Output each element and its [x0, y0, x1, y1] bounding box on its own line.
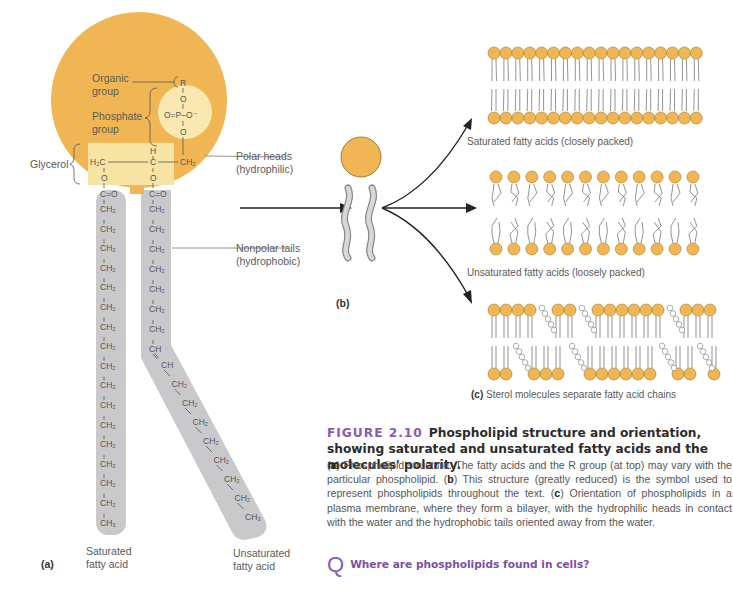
- svg-text:CH₂: CH₂: [100, 420, 116, 430]
- svg-text:C=O: C=O: [149, 189, 167, 199]
- svg-text:CH₂: CH₂: [100, 263, 116, 273]
- review-question: QWhere are phospholipids found in cells?: [327, 552, 589, 578]
- unsaturated-fatty-acid-label: Unsaturatedfatty acid: [233, 547, 290, 573]
- svg-text:CH₂: CH₂: [100, 361, 116, 371]
- svg-text:CH₂: CH₂: [100, 400, 116, 410]
- saturated-fatty-acid-label: Saturatedfatty acid: [86, 545, 132, 571]
- bilayer-diagrams: [480, 40, 733, 430]
- panel-c-label: (c): [471, 389, 483, 400]
- svg-text:O: O: [180, 94, 187, 104]
- panel-c-bilayers: Saturated fatty acids (closely packed) U…: [480, 40, 733, 430]
- svg-text:CH₂: CH₂: [149, 324, 165, 334]
- svg-text:CH₂: CH₂: [180, 157, 196, 167]
- phospholipid-symbol: [220, 100, 420, 330]
- svg-text:CH₂: CH₂: [214, 455, 230, 465]
- svg-text:CH₂: CH₂: [100, 302, 116, 312]
- panel-a-label: (a): [41, 558, 54, 571]
- svg-text:CH₂: CH₂: [100, 498, 116, 508]
- svg-text:H: H: [150, 146, 156, 156]
- svg-text:CH: CH: [161, 360, 173, 370]
- svg-text:CH₂: CH₂: [235, 493, 251, 503]
- svg-text:CH₂: CH₂: [193, 417, 209, 427]
- svg-text:C: C: [150, 157, 156, 167]
- svg-text:CH₂: CH₂: [100, 322, 116, 332]
- svg-text:CH₂: CH₂: [182, 398, 198, 408]
- svg-text:CH₂: CH₂: [100, 439, 116, 449]
- saturated-chain: CH₂CH₂CH₂CH₂CH₂CH₂CH₂CH₂CH₂CH₂CH₂CH₂CH₂C…: [100, 200, 116, 528]
- svg-text:CH₂: CH₂: [100, 282, 116, 292]
- phosphate-group-label: Phosphategroup: [92, 110, 142, 136]
- question-icon: Q: [327, 552, 344, 577]
- svg-text:CH₂: CH₂: [149, 224, 165, 234]
- svg-text:CH₂: CH₂: [100, 204, 116, 214]
- svg-text:O=P–O⁻: O=P–O⁻: [164, 110, 198, 120]
- figure-number: FIGURE 2.10: [327, 426, 423, 440]
- svg-text:CH₂: CH₂: [149, 244, 165, 254]
- glycerol-label: Glycerol: [30, 158, 69, 171]
- panel-b-symbol: (b): [220, 100, 420, 330]
- svg-text:O: O: [101, 173, 108, 183]
- svg-text:CH₂: CH₂: [100, 478, 116, 488]
- svg-text:CH₃: CH₃: [245, 512, 261, 522]
- svg-text:C=O: C=O: [100, 189, 118, 199]
- saturated-bilayer-caption: Saturated fatty acids (closely packed): [467, 135, 633, 148]
- svg-text:CH₂: CH₂: [224, 474, 240, 484]
- svg-text:CH₂: CH₂: [149, 284, 165, 294]
- polar-head-icon: [341, 137, 381, 177]
- svg-text:CH₂: CH₂: [100, 341, 116, 351]
- svg-text:CH₂: CH₂: [149, 264, 165, 274]
- svg-text:CH₂: CH₂: [203, 436, 219, 446]
- svg-text:CH₃: CH₃: [100, 518, 116, 528]
- svg-text:O: O: [150, 173, 157, 183]
- panel-b-label: (b): [336, 297, 349, 310]
- svg-text:CH₂: CH₂: [172, 379, 188, 389]
- svg-text:R: R: [180, 78, 186, 88]
- unsaturated-bilayer-caption: Unsaturated fatty acids (loosely packed): [467, 266, 645, 279]
- svg-text:CH₂: CH₂: [100, 224, 116, 234]
- svg-text:H₂C: H₂C: [90, 157, 106, 167]
- svg-text:CH₂: CH₂: [100, 243, 116, 253]
- svg-text:CH₂: CH₂: [100, 459, 116, 469]
- svg-text:CH₂: CH₂: [149, 204, 165, 214]
- svg-text:CH₂: CH₂: [100, 380, 116, 390]
- organic-group-label: Organicgroup: [92, 72, 129, 98]
- figure-caption: (a) Phospholipid structure. The fatty ac…: [327, 458, 732, 529]
- svg-text:O: O: [180, 127, 187, 137]
- svg-text:CH₂: CH₂: [149, 304, 165, 314]
- sterol-bilayer-caption: (c) Sterol molecules separate fatty acid…: [471, 388, 676, 401]
- svg-text:CH: CH: [149, 344, 161, 354]
